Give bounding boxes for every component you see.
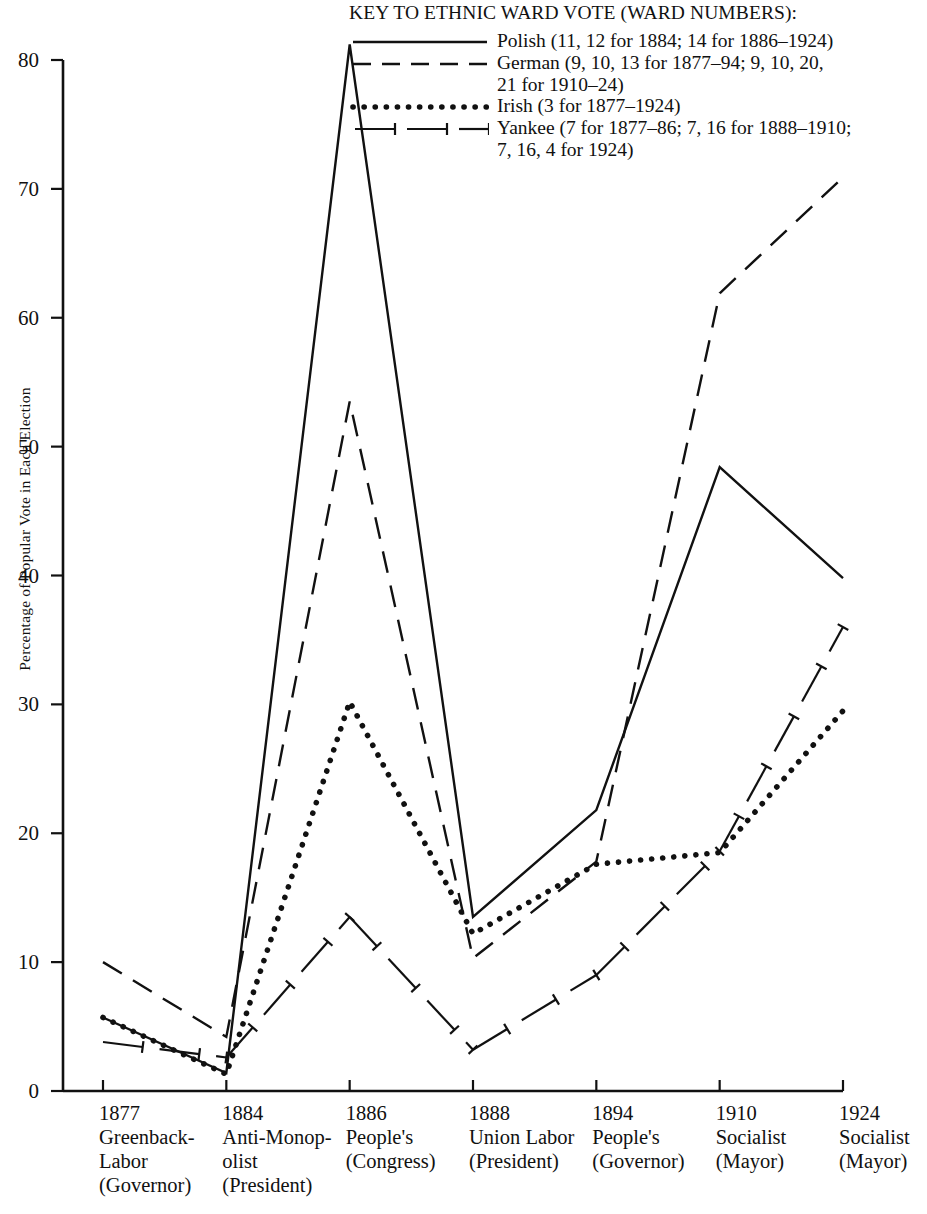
- x-tick-year: 1894: [592, 1101, 684, 1125]
- y-tick-label: 0: [0, 1079, 39, 1104]
- y-ticks: [51, 60, 63, 1091]
- x-tick-label-1886: 1886People's(Congress): [346, 1101, 436, 1173]
- axes: [63, 60, 843, 1091]
- x-tick-label-1888: 1888Union Labor(President): [469, 1101, 574, 1173]
- x-tick-year: 1888: [469, 1101, 574, 1125]
- plot-area: [0, 0, 927, 1214]
- chart-figure: KEY TO ETHNIC WARD VOTE (WARD NUMBERS): …: [0, 0, 927, 1214]
- x-tick-label-1910: 1910Socialist(Mayor): [716, 1101, 787, 1173]
- x-tick-year: 1910: [716, 1101, 787, 1125]
- x-tick-office: (Congress): [346, 1149, 436, 1173]
- y-tick-label: 20: [0, 821, 39, 846]
- series-polish: [103, 45, 843, 1074]
- y-tick-label: 30: [0, 692, 39, 717]
- x-ticks: [103, 1080, 843, 1091]
- x-tick-party: Socialist: [839, 1125, 910, 1149]
- x-tick-party: People's: [346, 1125, 436, 1149]
- x-tick-office: (President): [222, 1173, 331, 1197]
- x-tick-label-1924: 1924Socialist(Mayor): [839, 1101, 910, 1173]
- y-tick-label: 10: [0, 950, 39, 975]
- y-tick-label: 50: [0, 435, 39, 460]
- x-tick-year: 1877: [99, 1101, 195, 1125]
- series-yankee: [103, 624, 848, 1063]
- x-tick-year: 1886: [346, 1101, 436, 1125]
- x-tick-label-1884: 1884Anti-Monop- olist(President): [222, 1101, 331, 1197]
- y-tick-label: 80: [0, 48, 39, 73]
- series-german: [103, 177, 843, 1037]
- y-tick-label: 60: [0, 306, 39, 331]
- x-tick-party: Greenback- Labor: [99, 1125, 195, 1173]
- x-tick-office: (Governor): [592, 1149, 684, 1173]
- x-tick-label-1877: 1877Greenback- Labor(Governor): [99, 1101, 195, 1197]
- x-tick-office: (Governor): [99, 1173, 195, 1197]
- y-tick-label: 40: [0, 564, 39, 589]
- series-irish: [103, 702, 843, 1074]
- x-tick-year: 1924: [839, 1101, 910, 1125]
- x-tick-year: 1884: [222, 1101, 331, 1125]
- x-tick-office: (Mayor): [839, 1149, 910, 1173]
- x-tick-label-1894: 1894People's(Governor): [592, 1101, 684, 1173]
- x-tick-party: Socialist: [716, 1125, 787, 1149]
- x-tick-office: (President): [469, 1149, 574, 1173]
- x-tick-party: People's: [592, 1125, 684, 1149]
- y-tick-label: 70: [0, 177, 39, 202]
- x-tick-party: Union Labor: [469, 1125, 574, 1149]
- x-tick-office: (Mayor): [716, 1149, 787, 1173]
- x-tick-party: Anti-Monop- olist: [222, 1125, 331, 1173]
